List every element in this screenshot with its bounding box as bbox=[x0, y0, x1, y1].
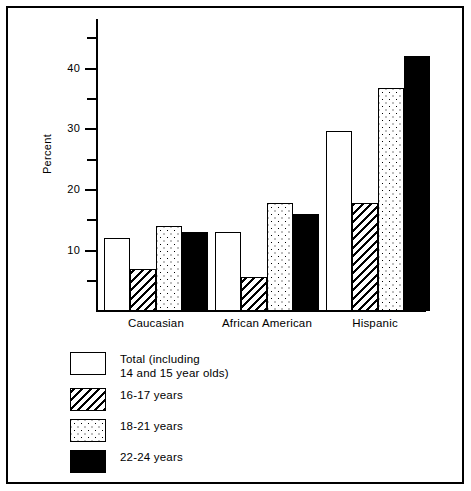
legend-white-swatch-icon bbox=[70, 352, 106, 375]
legend-hatch-swatch-icon bbox=[70, 388, 106, 411]
bar-african-american-total bbox=[215, 232, 241, 311]
y-tick-15 bbox=[87, 219, 96, 221]
legend-label-22-24: 22-24 years bbox=[120, 450, 183, 465]
y-tick-45 bbox=[87, 37, 96, 39]
y-tick-label-10: 10 bbox=[46, 245, 80, 256]
bar-hispanic-16-17 bbox=[352, 203, 378, 311]
legend-item-total: Total (including 14 and 15 year olds) bbox=[70, 352, 229, 380]
legend-dots-swatch-icon bbox=[70, 419, 106, 442]
y-tick-30 bbox=[85, 128, 96, 130]
bar-caucasian-16-17 bbox=[130, 269, 156, 311]
bar-hispanic-total bbox=[326, 131, 352, 311]
bar-caucasian-total bbox=[104, 238, 130, 311]
y-tick-35 bbox=[87, 98, 96, 100]
y-tick-25 bbox=[87, 159, 96, 161]
legend-label-total: Total (including 14 and 15 year olds) bbox=[120, 352, 229, 380]
y-tick-10 bbox=[85, 250, 96, 252]
legend-label-18-21: 18-21 years bbox=[120, 419, 183, 434]
bar-african-american-22-24 bbox=[293, 214, 319, 311]
bar-caucasian-18-21 bbox=[156, 226, 182, 311]
legend-label-16-17: 16-17 years bbox=[120, 388, 183, 403]
bar-african-american-18-21 bbox=[267, 203, 293, 311]
chart-figure: 40 30 20 10 Percent Caucasian African Am… bbox=[0, 0, 471, 491]
y-axis-line bbox=[96, 19, 98, 311]
legend-item-18-21: 18-21 years bbox=[70, 419, 229, 442]
y-tick-20 bbox=[85, 189, 96, 191]
y-tick-5 bbox=[87, 280, 96, 282]
bar-hispanic-18-21 bbox=[378, 88, 404, 311]
chart-legend: Total (including 14 and 15 year olds) 16… bbox=[70, 352, 229, 481]
legend-item-16-17: 16-17 years bbox=[70, 388, 229, 411]
x-label-hispanic: Hispanic bbox=[305, 317, 445, 329]
bar-hispanic-22-24 bbox=[404, 56, 430, 311]
bar-african-american-16-17 bbox=[241, 277, 267, 311]
legend-black-swatch-icon bbox=[70, 450, 106, 473]
legend-item-22-24: 22-24 years bbox=[70, 450, 229, 473]
y-tick-label-40: 40 bbox=[46, 63, 80, 74]
y-axis-title: Percent bbox=[41, 104, 53, 204]
bar-caucasian-22-24 bbox=[182, 232, 208, 311]
y-tick-40 bbox=[85, 68, 96, 70]
